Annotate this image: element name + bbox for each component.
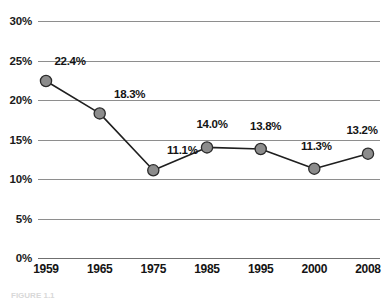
data-value-label: 18.3%: [114, 88, 145, 100]
x-axis-tick-label: 1959: [33, 262, 59, 276]
data-point-marker: [148, 165, 159, 176]
data-point-marker: [94, 108, 105, 119]
data-point-marker: [40, 75, 51, 86]
data-point-marker: [362, 148, 373, 159]
data-point-marker: [255, 143, 266, 154]
x-axis-tick-label: 1995: [248, 262, 274, 276]
data-value-label: 13.2%: [346, 124, 377, 136]
data-value-label: 22.4%: [54, 55, 85, 67]
x-axis-tick-label: 1965: [87, 262, 113, 276]
data-value-label: 11.3%: [301, 140, 331, 152]
figure-caption: FIGURE 1.1: [11, 291, 55, 300]
x-axis-tick-label: 2008: [355, 262, 381, 276]
data-point-marker: [201, 142, 212, 153]
data-value-label: 14.0%: [196, 118, 227, 130]
x-axis-tick-label: 1975: [141, 262, 167, 276]
data-point-marker: [309, 163, 320, 174]
x-axis-tick-label: 2000: [302, 262, 328, 276]
x-axis-tick-label: 1985: [194, 262, 220, 276]
data-value-label: 13.8%: [250, 120, 281, 132]
data-value-label: 11.1%: [167, 144, 197, 156]
line-chart: 30%25%20%15%10%5%0% 19591965197519851995…: [0, 0, 389, 300]
